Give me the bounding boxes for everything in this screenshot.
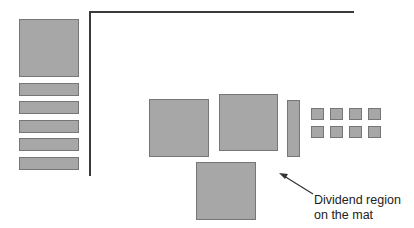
annotation-line-1: Dividend region: [314, 193, 401, 208]
annotation-line-2: on the mat: [314, 208, 373, 223]
diagram-canvas: Dividend region on the mat: [0, 0, 414, 228]
